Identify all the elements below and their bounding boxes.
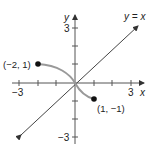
x-min-label: −3 xyxy=(12,87,24,98)
line-y-equals-x xyxy=(21,26,138,135)
point-b-label: (1, −1) xyxy=(97,103,125,114)
coordinate-plane: y 3 −3 −3 3 x y = x (−2, 1) (1, −1) xyxy=(0,0,153,146)
y-max-label: 3 xyxy=(64,23,70,34)
y-min-label: −3 xyxy=(58,132,70,143)
graph-figure: y 3 −3 −3 3 x y = x (−2, 1) (1, −1) xyxy=(0,0,153,146)
x-max-label: 3 xyxy=(128,87,134,98)
x-axis-label: x xyxy=(139,87,146,98)
point-b xyxy=(91,96,97,102)
line-label: y = x xyxy=(123,11,146,22)
point-a-label: (−2, 1) xyxy=(3,59,31,70)
y-axis-label: y xyxy=(63,12,70,23)
point-a xyxy=(35,61,41,67)
